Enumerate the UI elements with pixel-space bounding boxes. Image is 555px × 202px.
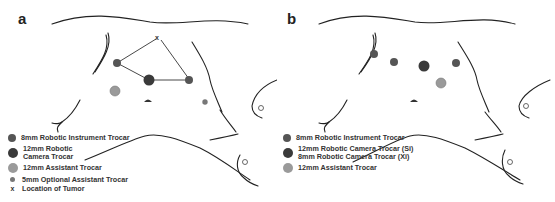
tumor-marker: x (155, 34, 159, 41)
navel-icon (410, 100, 418, 103)
camera-trocar-dot (144, 75, 155, 86)
legend-item: 8mm Robotic Instrument Trocar (8, 134, 130, 142)
assistant-trocar-dot (436, 78, 446, 88)
optional-assistant-trocar-dot (202, 99, 207, 104)
legend-label: 8mm Robotic Instrument Trocar (21, 134, 130, 142)
assistant-trocar-swatch-icon (8, 163, 18, 173)
legend-a: 8mm Robotic Instrument Trocar 12mm Robot… (8, 134, 130, 195)
navel-icon (144, 100, 152, 103)
tumor-x-icon: x (8, 185, 17, 192)
camera-trocar-swatch-icon (283, 148, 293, 158)
instrument-trocar-dot (452, 59, 460, 67)
panel-b: b 8mm Robotic Instrument Trocar (275, 0, 552, 202)
legend-label: 5mm Optional Assistant Trocar (22, 176, 128, 184)
legend-item: 12mm Robotic Camera Trocar (Si) 8mm Robo… (283, 145, 413, 160)
instrument-trocar-dot (370, 50, 378, 58)
legend-item: x Location of Tumor (8, 185, 130, 193)
legend-label: 8mm Robotic Instrument Trocar (296, 134, 405, 142)
instrument-trocar-dot (390, 58, 398, 66)
assistant-trocar-dot (110, 86, 120, 96)
legend-label: Location of Tumor (22, 185, 85, 193)
instrument-trocar-swatch-icon (8, 134, 16, 142)
legend-label: 12mm Robotic Camera Trocar (23, 145, 93, 160)
instrument-trocar-dot (113, 59, 121, 67)
legend-item: 5mm Optional Assistant Trocar (8, 176, 130, 184)
legend-item: 12mm Robotic Camera Trocar (8, 145, 130, 160)
legend-item: 8mm Robotic Instrument Trocar (283, 134, 413, 142)
camera-trocar-dot (419, 61, 430, 72)
legend-item: 12mm Assistant Trocar (8, 163, 130, 173)
instrument-trocar-swatch-icon (283, 134, 291, 142)
legend-label-secondary: 8mm Robotic Camera Trocar (Xi) (298, 153, 413, 161)
assistant-trocar-swatch-icon (283, 163, 293, 173)
legend-b: 8mm Robotic Instrument Trocar 12mm Robot… (283, 134, 413, 176)
legend-label: 12mm Assistant Trocar (298, 164, 377, 172)
legend-label: 12mm Assistant Trocar (23, 164, 102, 172)
panel-a: a x (0, 0, 277, 202)
instrument-trocar-dot (185, 76, 193, 84)
legend-item: 12mm Assistant Trocar (283, 163, 413, 173)
optional-trocar-swatch-icon (10, 177, 15, 182)
camera-trocar-swatch-icon (8, 148, 18, 158)
